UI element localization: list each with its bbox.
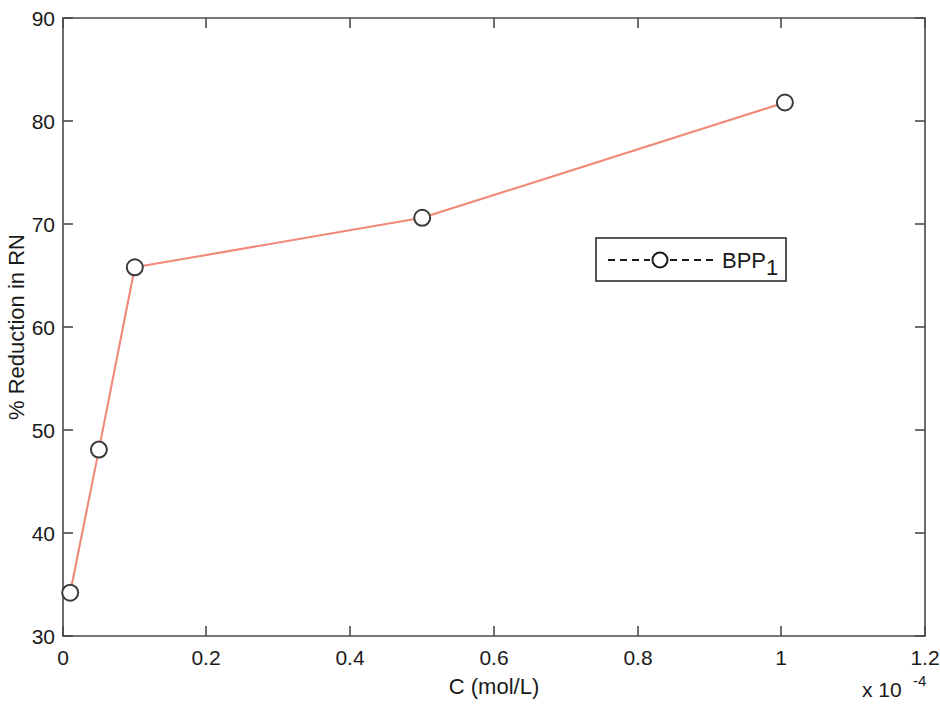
legend-label-bpp: BPP — [722, 248, 766, 273]
y-tick-labels: 30 40 50 60 70 80 90 — [32, 7, 55, 648]
y-tick-label: 50 — [32, 419, 55, 442]
data-point[interactable] — [777, 95, 793, 111]
x-axis-title: C (mol/L) — [449, 674, 539, 699]
plot-area-background — [63, 18, 925, 636]
x-tick-label: 0 — [57, 646, 69, 669]
chart-legend[interactable]: BPP 1 — [596, 238, 786, 281]
data-point[interactable] — [62, 585, 78, 601]
x-tick-label: 0.8 — [623, 646, 652, 669]
y-tick-label: 80 — [32, 110, 55, 133]
x-tick-label: 0.6 — [479, 646, 508, 669]
x-axis-exponent: x 10 -4 — [862, 672, 926, 701]
x-tick-label: 0.4 — [335, 646, 365, 669]
x-tick-label: 1 — [775, 646, 787, 669]
chart-figure: 30 40 50 60 70 80 90 0 — [0, 0, 940, 705]
y-tick-label: 40 — [32, 522, 55, 545]
y-axis-title: % Reduction in RN — [4, 234, 29, 420]
line-chart-canvas: 30 40 50 60 70 80 90 0 — [0, 0, 940, 705]
x-axis-exponent-power: -4 — [913, 672, 926, 689]
y-tick-label: 70 — [32, 213, 55, 236]
x-tick-labels: 0 0.2 0.4 0.6 0.8 1 1.2 — [57, 646, 939, 669]
data-point[interactable] — [91, 442, 107, 458]
x-tick-label: 0.2 — [191, 646, 220, 669]
y-tick-label: 30 — [32, 625, 55, 648]
data-point[interactable] — [414, 210, 430, 226]
legend-marker-circle-icon — [653, 253, 668, 268]
x-tick-label: 1.2 — [910, 646, 939, 669]
legend-label-subscript: 1 — [766, 255, 778, 280]
y-tick-label: 90 — [32, 7, 55, 30]
x-axis-exponent-base: x 10 — [862, 678, 902, 701]
y-tick-label: 60 — [32, 316, 55, 339]
data-point[interactable] — [127, 259, 143, 275]
